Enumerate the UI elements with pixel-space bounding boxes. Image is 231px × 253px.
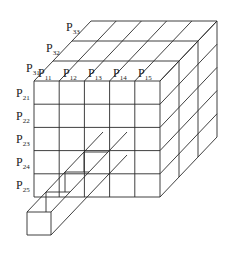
side-diagonal-line [160, 114, 217, 174]
row-labels-p2x: P21P22P23P24P25 [16, 86, 30, 194]
label-p32: P32 [46, 41, 60, 57]
cube-grid-lines [34, 21, 217, 197]
side-diagonal-line [160, 91, 217, 151]
label-p14: P14 [113, 66, 127, 82]
depth-labels-p3x: P31P32P33 [26, 20, 80, 77]
label-p25: P25 [16, 178, 30, 194]
label-p12: P12 [63, 66, 77, 82]
label-p31: P31 [26, 61, 40, 77]
side-diagonal-line [160, 21, 217, 81]
caption [40, 243, 190, 249]
label-p21: P21 [16, 86, 30, 102]
label-p15: P15 [138, 66, 152, 82]
side-diagonal-line [160, 137, 217, 197]
cube-diagram: P11P12P13P14P15 P21P22P23P24P25 P31P32P3… [0, 0, 231, 253]
label-p13: P13 [88, 66, 102, 82]
label-p24: P24 [16, 155, 30, 171]
label-p23: P23 [16, 132, 30, 148]
bar-edge [51, 155, 127, 235]
label-p11: P11 [38, 66, 52, 82]
extracted-column-bar [27, 132, 127, 235]
side-diagonal-line [160, 44, 217, 104]
column-labels-p1x: P11P12P13P14P15 [38, 66, 152, 82]
label-p22: P22 [16, 109, 30, 125]
label-p33: P33 [66, 20, 80, 36]
side-diagonal-line [160, 67, 217, 127]
